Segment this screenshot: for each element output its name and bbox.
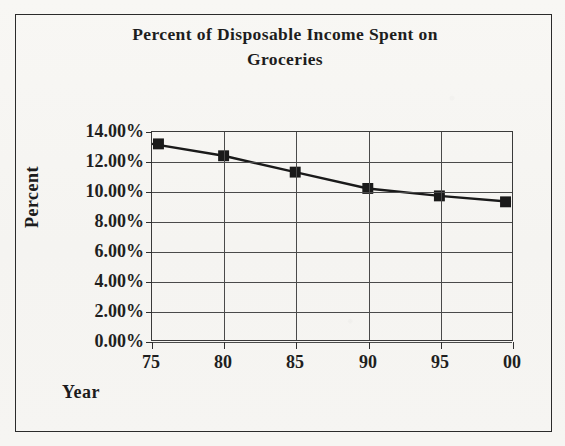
gridline-horizontal xyxy=(152,222,512,223)
x-axis-tick-label: 00 xyxy=(489,352,535,373)
y-axis-tick-label: 8.00% xyxy=(52,211,144,232)
x-axis-tick-label: 90 xyxy=(345,352,391,373)
y-axis-tick-mark xyxy=(146,282,152,283)
y-axis-title: Percent xyxy=(22,137,46,257)
y-axis-tick-label: 2.00% xyxy=(52,301,144,322)
x-axis-tick-mark xyxy=(369,342,370,349)
chart-title-line-1: Percent of Disposable Income Spent on xyxy=(132,24,438,44)
y-axis-tick-mark xyxy=(146,192,152,193)
gridline-vertical xyxy=(369,132,370,340)
x-axis-tick-mark xyxy=(441,342,442,349)
chart-title: Percent of Disposable Income Spent on Gr… xyxy=(60,22,510,72)
y-axis-tick-label: 10.00% xyxy=(52,181,144,202)
y-axis-tick-label: 0.00% xyxy=(52,331,144,352)
gridline-horizontal xyxy=(152,282,512,283)
gridline-horizontal xyxy=(152,192,512,193)
gridline-horizontal xyxy=(152,162,512,163)
y-axis-tick-mark xyxy=(146,162,152,163)
plot-area xyxy=(151,131,513,341)
x-axis-tick-label: 85 xyxy=(272,352,318,373)
x-axis-tick-mark xyxy=(513,342,514,349)
gridline-vertical xyxy=(441,132,442,340)
y-axis-tick-mark xyxy=(146,252,152,253)
x-axis-tick-mark xyxy=(296,342,297,349)
data-point-marker xyxy=(153,138,164,149)
x-axis-tick-mark xyxy=(152,342,153,349)
y-axis-tick-label: 14.00% xyxy=(52,121,144,142)
gridline-horizontal xyxy=(152,252,512,253)
x-axis-tick-mark xyxy=(224,342,225,349)
x-axis-tick-label: 80 xyxy=(200,352,246,373)
y-axis-tick-mark xyxy=(146,132,152,133)
y-axis-tick-mark xyxy=(146,222,152,223)
y-axis-tick-labels: 14.00%12.00%10.00%8.00%6.00%4.00%2.00%0.… xyxy=(52,131,144,341)
gridline-vertical xyxy=(224,132,225,340)
gridline-horizontal xyxy=(152,312,512,313)
y-axis-tick-label: 4.00% xyxy=(52,271,144,292)
gridline-vertical xyxy=(296,132,297,340)
x-axis-title: Year xyxy=(62,382,100,403)
chart-title-line-2: Groceries xyxy=(247,49,323,69)
x-axis-tick-label: 75 xyxy=(128,352,174,373)
y-axis-tick-mark xyxy=(146,312,152,313)
series-line xyxy=(152,144,511,202)
gridline-horizontal xyxy=(152,342,512,343)
x-axis-tick-labels: 758085909500 xyxy=(151,352,513,380)
y-axis-tick-label: 6.00% xyxy=(52,241,144,262)
data-series-line xyxy=(152,132,512,340)
x-axis-tick-label: 95 xyxy=(417,352,463,373)
data-point-marker xyxy=(500,196,511,207)
chart-screenshot: Percent of Disposable Income Spent on Gr… xyxy=(0,0,565,446)
y-axis-tick-label: 12.00% xyxy=(52,151,144,172)
